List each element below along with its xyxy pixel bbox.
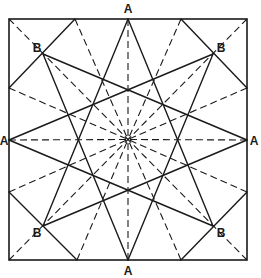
dashed-ray-c-tr <box>128 19 247 140</box>
dashed-ray-a-left <box>9 140 128 141</box>
point-label-b-7: B <box>217 226 226 240</box>
point-label-a-0: A <box>124 2 133 16</box>
point-label-a-3: A <box>250 134 259 148</box>
dashed-ray-c-tl <box>9 19 128 140</box>
dashed-ray-c-bl <box>9 140 128 261</box>
point-label-b-5: B <box>217 41 226 55</box>
point-label-b-4: B <box>33 41 42 55</box>
dashed-ray-c-br <box>128 140 247 261</box>
point-label-b-6: B <box>33 226 42 240</box>
star-construction-diagram: AAAABBBB <box>0 0 261 278</box>
point-label-a-2: A <box>0 134 9 148</box>
dashed-ray-a-right <box>128 140 247 141</box>
point-label-a-1: A <box>124 264 133 278</box>
